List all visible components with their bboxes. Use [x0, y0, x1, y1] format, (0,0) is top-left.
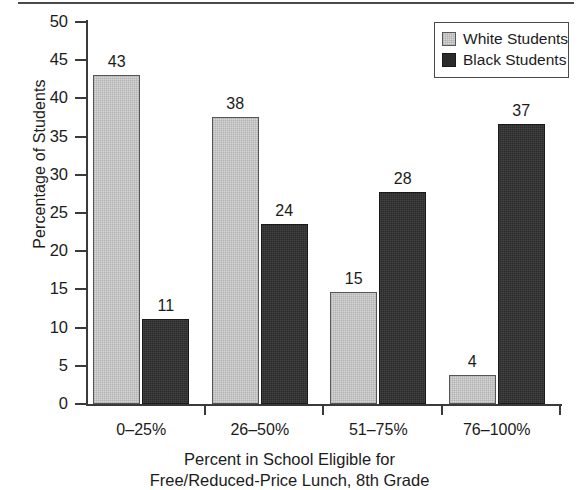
legend-label-white-students: White Students — [463, 30, 568, 48]
bar-black-students[interactable] — [498, 124, 545, 404]
bar-value-label: 28 — [379, 171, 426, 187]
bar-black-students[interactable] — [261, 224, 308, 404]
y-axis-tick-label: 30 — [28, 166, 68, 183]
legend-item-white-students[interactable]: White Students — [442, 29, 561, 49]
y-axis-tick-label: 20 — [28, 242, 68, 259]
x-axis-title-line-2: Free/Reduced-Price Lunch, 8th Grade — [0, 470, 579, 490]
bar-white-students[interactable] — [330, 292, 377, 404]
bar-black-students[interactable] — [142, 319, 189, 404]
x-axis-tick — [322, 406, 324, 415]
page-rule-divider — [18, 2, 574, 4]
bar-black-students[interactable] — [379, 192, 426, 404]
legend: White Students Black Students — [434, 22, 569, 78]
bar-chart: Percentage of Students 05101520253035404… — [0, 0, 579, 490]
bar-white-students[interactable] — [93, 75, 140, 404]
legend-item-black-students[interactable]: Black Students — [442, 50, 561, 70]
y-axis-tick-label: 10 — [28, 319, 68, 336]
x-axis-tick — [559, 406, 561, 415]
x-axis-category-label: 76–100% — [429, 421, 565, 439]
y-axis-tick-label: 45 — [28, 51, 68, 68]
x-axis-tick — [441, 406, 443, 415]
y-axis-tick-label: 5 — [28, 357, 68, 374]
y-axis-tick-label: 40 — [28, 89, 68, 106]
y-axis-tick — [75, 97, 86, 99]
x-axis-title-line-1: Percent in School Eligible for — [0, 449, 579, 470]
y-axis-tick — [75, 174, 86, 176]
y-axis-tick — [75, 327, 86, 329]
bar-value-label: 38 — [212, 96, 259, 112]
x-axis-category-label: 51–75% — [310, 421, 446, 439]
x-axis-tick — [204, 406, 206, 415]
y-axis-tick-label: 25 — [28, 204, 68, 221]
y-axis-tick — [75, 365, 86, 367]
bar-value-label: 24 — [261, 203, 308, 219]
x-axis-category-label: 26–50% — [192, 421, 328, 439]
bar-white-students[interactable] — [449, 375, 496, 404]
y-axis-tick — [75, 136, 86, 138]
x-axis-title: Percent in School Eligible for Free/Redu… — [0, 449, 579, 490]
legend-swatch-black-students-icon — [442, 53, 456, 67]
bar-white-students[interactable] — [212, 117, 259, 404]
bar-value-label: 43 — [93, 54, 140, 70]
y-axis-tick-label: 15 — [28, 280, 68, 297]
legend-label-black-students: Black Students — [463, 51, 566, 69]
x-axis-line — [86, 404, 562, 406]
y-axis-tick — [75, 403, 86, 405]
bar-value-label: 15 — [330, 271, 377, 287]
y-axis-tick — [75, 212, 86, 214]
y-axis-tick — [75, 250, 86, 252]
y-axis-tick — [75, 21, 86, 23]
y-axis-tick — [75, 59, 86, 61]
y-axis-tick-label: 35 — [28, 128, 68, 145]
x-axis-category-label: 0–25% — [73, 421, 209, 439]
bar-value-label: 11 — [142, 298, 189, 314]
plot-area — [86, 22, 560, 404]
legend-swatch-white-students-icon — [442, 32, 456, 46]
y-axis-tick-label: 0 — [28, 395, 68, 412]
bar-value-label: 4 — [449, 354, 496, 370]
y-axis-tick-label: 50 — [28, 13, 68, 30]
bar-value-label: 37 — [498, 103, 545, 119]
y-axis-tick — [75, 288, 86, 290]
